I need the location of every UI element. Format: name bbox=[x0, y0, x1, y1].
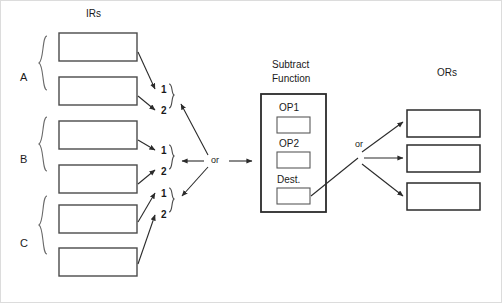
irs-heading: IRs bbox=[86, 9, 101, 19]
or-connector-left: or bbox=[211, 156, 219, 165]
operand-b-2: 2 bbox=[161, 167, 167, 177]
subtract-function-title-line1: Subtract bbox=[272, 60, 309, 70]
ir-box-c2[interactable] bbox=[63, 257, 133, 269]
group-label-c: C bbox=[20, 238, 28, 249]
or-connector-right: or bbox=[355, 140, 363, 149]
operand-c-2: 2 bbox=[161, 210, 167, 220]
ir-box-b2[interactable] bbox=[63, 174, 133, 186]
or-box-1[interactable] bbox=[411, 118, 476, 130]
field-label-op1: OP1 bbox=[279, 103, 299, 113]
field-value-op1[interactable] bbox=[280, 121, 307, 132]
or-box-2[interactable] bbox=[411, 153, 476, 165]
or-box-3[interactable] bbox=[411, 191, 476, 203]
group-label-b: B bbox=[20, 154, 27, 165]
field-value-op2[interactable] bbox=[280, 156, 307, 167]
ir-box-a1[interactable] bbox=[63, 42, 133, 54]
ir-box-a2[interactable] bbox=[63, 86, 133, 98]
operand-c-1: 1 bbox=[161, 189, 167, 199]
ir-box-c1[interactable] bbox=[63, 214, 133, 226]
operand-a-1: 1 bbox=[161, 85, 167, 95]
ir-box-b1[interactable] bbox=[63, 130, 133, 142]
field-label-op2: OP2 bbox=[279, 139, 299, 149]
operand-b-1: 1 bbox=[161, 146, 167, 156]
field-value-dest[interactable] bbox=[280, 192, 307, 203]
ors-heading: ORs bbox=[437, 68, 457, 78]
operand-a-2: 2 bbox=[161, 106, 167, 116]
field-label-dest: Dest. bbox=[277, 175, 300, 185]
subtract-function-title-line2: Function bbox=[272, 74, 310, 84]
group-label-a: A bbox=[20, 72, 27, 83]
diagram-canvas: IRs ORs Subtract Function A B C 1 2 1 2 … bbox=[0, 0, 502, 303]
